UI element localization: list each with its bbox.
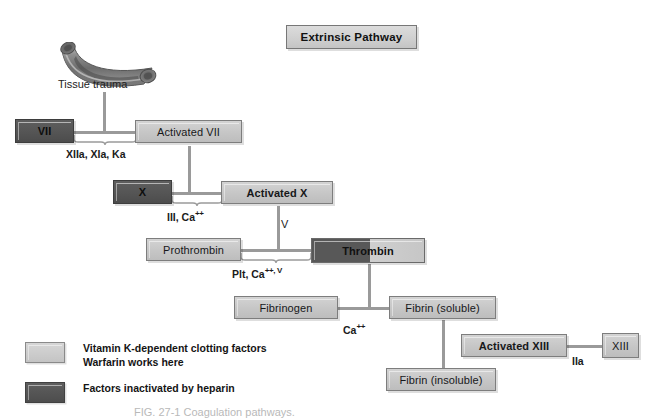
connector-fibrin-soluble-to-insoluble (442, 320, 445, 369)
node-activated-xiii-label: Activated XIII (479, 340, 549, 352)
connector-activated-vii-down (188, 146, 191, 193)
node-factor-vii-label: VII (38, 125, 52, 137)
node-factor-xiii[interactable]: XIII (602, 333, 639, 358)
legend-text-heparin: Factors inactivated by heparin (83, 382, 235, 396)
legend-item-vitamin-k: Vitamin K-dependent clotting factors War… (25, 342, 267, 369)
cofactor-prothrombin-label: Plt, Ca++, V (232, 266, 282, 280)
node-fibrin-soluble[interactable]: Fibrin (soluble) (389, 296, 496, 319)
coagulation-extrinsic-pathway-figure: Extrinsic Pathway (0, 0, 653, 419)
node-factor-x-label: X (139, 186, 146, 198)
cofactor-x-activation-text: III, Ca (167, 211, 195, 223)
cofactor-prothrombin-sup: ++, V (265, 266, 282, 275)
figure-title-box: Extrinsic Pathway (286, 25, 417, 49)
figure-caption: FIG. 27-1 Coagulation pathways. (134, 406, 295, 418)
legend-swatch-dark (25, 382, 65, 403)
node-prothrombin[interactable]: Prothrombin (146, 238, 241, 261)
node-activated-x-label: Activated X (246, 187, 307, 199)
figure-title-label: Extrinsic Pathway (301, 31, 403, 43)
brace-vii-activation (73, 134, 137, 146)
tissue-trauma-label: Tissue trauma (58, 78, 127, 90)
node-activated-x[interactable]: Activated X (221, 181, 333, 204)
node-factor-xiii-label: XIII (612, 340, 629, 352)
node-factor-vii[interactable]: VII (15, 119, 74, 143)
connector-activated-x-down (277, 206, 280, 250)
brace-x-activation (171, 195, 223, 207)
cofactor-thrombin-v-label: V (281, 218, 288, 230)
connector-trauma-to-vii (103, 92, 106, 132)
node-fibrinogen-label: Fibrinogen (260, 302, 313, 314)
node-fibrin-soluble-label: Fibrin (soluble) (405, 302, 479, 314)
cofactor-prothrombin-text: Plt, Ca (232, 268, 265, 280)
cofactor-fibrin-sup: ++ (356, 322, 365, 331)
node-fibrinogen[interactable]: Fibrinogen (234, 296, 338, 319)
legend-item-heparin: Factors inactivated by heparin (25, 382, 235, 403)
connector-fibrinogen-to-fibrin-soluble (338, 307, 390, 310)
cofactor-fibrin-label: Ca++ (343, 322, 365, 336)
brace-prothrombin-activation (240, 252, 313, 264)
cofactor-xiii-activation-label: IIa (572, 355, 584, 367)
node-thrombin-label: Thrombin (342, 245, 394, 257)
cofactor-x-activation-label: III, Ca++ (167, 209, 204, 223)
connector-thrombin-down (368, 264, 371, 308)
node-activated-vii[interactable]: Activated VII (135, 120, 242, 143)
legend-line-1: Factors inactivated by heparin (83, 382, 235, 396)
legend-text-vitamin-k: Vitamin K-dependent clotting factors War… (83, 342, 267, 369)
node-thrombin[interactable]: Thrombin (311, 238, 425, 263)
cofactor-x-activation-sup: ++ (195, 209, 204, 218)
node-activated-xiii[interactable]: Activated XIII (461, 334, 567, 357)
cofactor-vii-activation-label: XIIa, XIa, Ka (66, 148, 126, 160)
cofactor-fibrin-text: Ca (343, 324, 356, 336)
node-activated-vii-label: Activated VII (157, 126, 220, 138)
connector-activated-xiii-to-xiii (566, 345, 603, 348)
node-fibrin-insoluble[interactable]: Fibrin (insoluble) (386, 368, 496, 391)
node-fibrin-insoluble-label: Fibrin (insoluble) (399, 374, 482, 386)
legend-swatch-light (25, 342, 65, 363)
node-factor-x[interactable]: X (113, 180, 172, 204)
node-prothrombin-label: Prothrombin (163, 244, 224, 256)
legend-line-2: Warfarin works here (83, 356, 267, 370)
legend-line-1: Vitamin K-dependent clotting factors (83, 342, 267, 356)
